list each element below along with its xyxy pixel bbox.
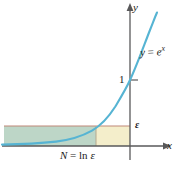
epsilon-label: ε bbox=[135, 120, 139, 130]
N-annotation-ln: ln bbox=[79, 149, 88, 161]
N-annotation-epsilon: ε bbox=[90, 149, 94, 161]
exponential-curve bbox=[2, 13, 157, 145]
x-axis-label: x bbox=[167, 140, 172, 151]
y-tick-label-one: 1 bbox=[119, 74, 125, 85]
epsilon-band-right bbox=[96, 126, 130, 146]
figure-canvas: y x y = ex 1 ε N = ln ε bbox=[0, 0, 179, 172]
graph-svg bbox=[0, 0, 179, 172]
N-annotation-label: N = ln ε bbox=[60, 150, 95, 161]
curve-equation-label: y = ex bbox=[140, 45, 165, 59]
y-axis-label: y bbox=[133, 2, 138, 13]
curve-eq-exponent: x bbox=[161, 44, 165, 53]
